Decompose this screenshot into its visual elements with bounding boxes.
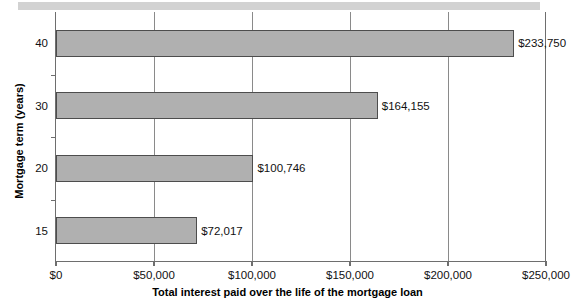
y-tick-label-20: 20 [35, 162, 48, 174]
bar-value-label: $72,017 [201, 225, 243, 237]
y-tick-label-30: 30 [35, 100, 48, 112]
x-tick-mark [447, 261, 448, 266]
bar-40: $233,75040 [56, 30, 514, 57]
x-tick-mark [153, 261, 154, 266]
x-tick-mark [251, 261, 252, 266]
y-tick-mark [51, 75, 56, 76]
bar-value-label: $233,750 [518, 37, 566, 49]
x-tick-label: $200,000 [424, 269, 472, 281]
y-axis-title: Mortgage term (years) [13, 26, 25, 256]
bar-value-label: $100,746 [257, 162, 305, 174]
x-tick-mark [55, 261, 56, 266]
x-tick-label: $250,000 [522, 269, 570, 281]
y-tick-mark [51, 200, 56, 201]
y-tick-mark [51, 137, 56, 138]
bar-chart-figure: Mortgage term (years) $0$50,000$100,000$… [0, 0, 575, 302]
x-axis-title: Total interest paid over the life of the… [0, 286, 575, 298]
bar-value-label: $164,155 [382, 100, 430, 112]
bar-30: $164,15530 [56, 92, 378, 119]
x-tick-label: $100,000 [228, 269, 276, 281]
plot-area: $0$50,000$100,000$150,000$200,000$250,00… [55, 12, 545, 262]
x-tick-label: $50,000 [133, 269, 175, 281]
bar-15: $72,01715 [56, 217, 197, 244]
x-tick-label: $0 [50, 269, 63, 281]
x-tick-mark [545, 261, 546, 266]
bar-20: $100,74620 [56, 155, 253, 182]
x-tick-mark [349, 261, 350, 266]
plot-inner: $0$50,000$100,000$150,000$200,000$250,00… [56, 12, 545, 261]
x-tick-label: $150,000 [326, 269, 374, 281]
y-tick-label-15: 15 [35, 225, 48, 237]
y-tick-label-40: 40 [35, 37, 48, 49]
gridline-250000 [545, 12, 546, 261]
